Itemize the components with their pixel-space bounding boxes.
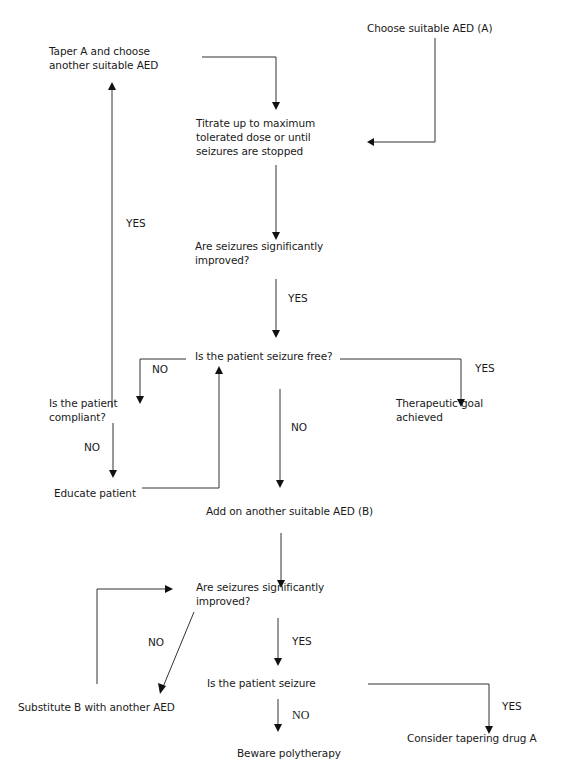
node-taper-a: Taper A and choose another suitable AED (49, 44, 158, 72)
edge-taper-to-titrate (202, 57, 276, 103)
arrowhead (276, 480, 284, 488)
node-therapeutic-goal: Therapeutic goal achieved (396, 396, 483, 424)
edge-label-yes: YES (475, 361, 495, 375)
node-compliant: Is the patient compliant? (49, 396, 117, 424)
arrowhead (272, 330, 280, 338)
arrowhead (108, 82, 116, 90)
arrowhead (158, 683, 166, 694)
arrowhead (215, 366, 223, 374)
edge-label-no: NO (84, 440, 100, 454)
node-choose-aed-a: Choose suitable AED (A) (367, 21, 492, 35)
edge-choose-to-titrate (373, 38, 435, 142)
node-seizure-free-2: Is the patient seizure (207, 676, 316, 690)
arrowhead (274, 658, 282, 666)
arrowhead (367, 138, 374, 146)
edge-label-yes: YES (502, 699, 522, 713)
node-titrate: Titrate up to maximum tolerated dose or … (196, 116, 315, 158)
edge-label-no: NO (292, 708, 309, 722)
edge-seizurefree1-to-goal (340, 359, 461, 400)
edge-label-no: NO (291, 420, 307, 434)
arrowhead (165, 585, 173, 593)
edge-label-yes: YES (292, 634, 312, 648)
edge-label-yes: YES (126, 216, 146, 230)
edge-label-no: NO (152, 362, 168, 376)
arrowhead (136, 396, 144, 404)
node-improved-2: Are seizures significantly improved? (196, 580, 324, 608)
arrowhead (272, 102, 280, 110)
node-beware: Beware polytherapy (237, 746, 341, 760)
node-substitute-b: Substitute B with another AED (18, 700, 175, 714)
edge-seizurefree2-to-consider (368, 684, 489, 727)
edge-label-yes: YES (288, 291, 308, 305)
edge-educate-to-seizurefree1 (142, 373, 219, 488)
node-consider-taper: Consider tapering drug A (407, 731, 537, 745)
arrowhead (109, 470, 117, 478)
node-educate: Educate patient (54, 486, 136, 500)
arrowhead (274, 724, 282, 732)
edge-label-no: NO (148, 635, 164, 649)
node-improved-1: Are seizures significantly improved? (195, 239, 323, 267)
node-seizure-free-1: Is the patient seizure free? (195, 349, 333, 363)
edge-improved2-to-substitute (163, 612, 194, 687)
node-add-on-b: Add on another suitable AED (B) (206, 504, 373, 518)
